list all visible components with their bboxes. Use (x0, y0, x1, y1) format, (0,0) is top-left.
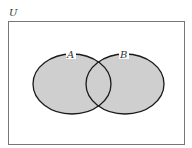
shaded-union (33, 54, 164, 114)
set-b-label: B (119, 49, 127, 60)
set-a-label: A (66, 49, 74, 60)
universe-label: U (9, 7, 18, 18)
venn-diagram: U A B (0, 0, 192, 148)
